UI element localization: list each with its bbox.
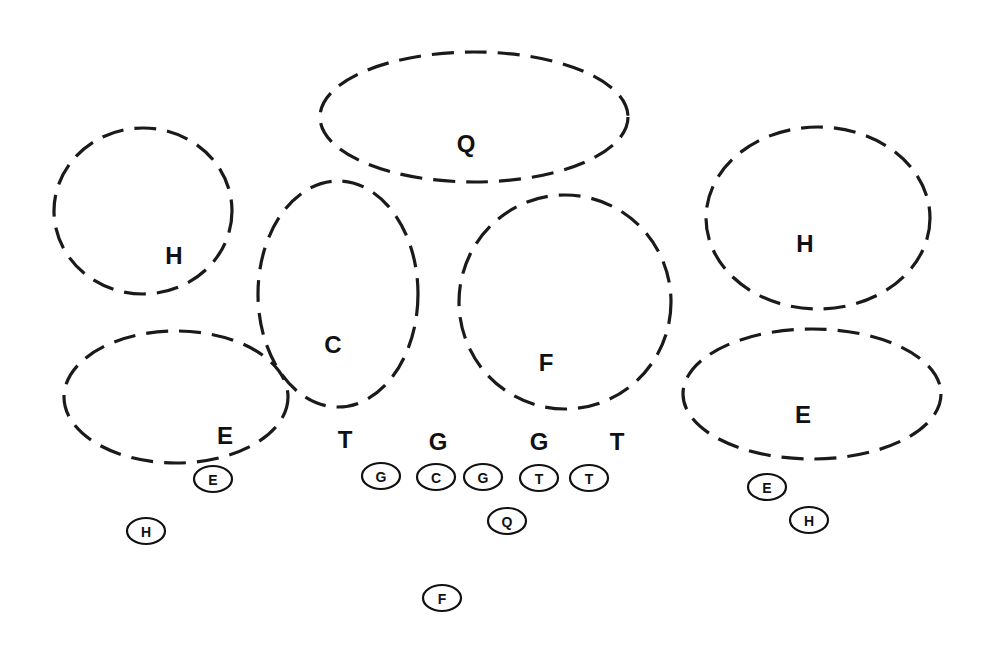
zone-label: E (795, 401, 811, 428)
zone-label: C (324, 331, 341, 358)
player-label: E (762, 480, 771, 496)
zone-label: F (539, 349, 554, 376)
zone-outline (64, 331, 288, 463)
zone-outline (459, 195, 671, 409)
zone-label: H (796, 230, 813, 257)
off-q: Q (488, 508, 526, 534)
player-label: G (376, 469, 387, 485)
player-label: G (478, 470, 489, 486)
zone-q: Q (320, 52, 628, 182)
zone-outline (706, 127, 930, 309)
player-label: T (585, 471, 594, 487)
def-t-left: T (338, 426, 353, 453)
zone-label: H (165, 242, 182, 269)
football-coverage-diagram: QHCFHEE TGGT EHGCGTTQFEH (0, 0, 984, 647)
player-label: T (535, 471, 544, 487)
def-g-left: G (429, 428, 448, 455)
zone-outline (683, 329, 941, 459)
coverage-zones: QHCFHEE (54, 52, 941, 463)
zone-e-right: E (683, 329, 941, 459)
off-e-right: E (748, 474, 786, 500)
offensive-formation: EHGCGTTQFEH (127, 463, 828, 611)
off-e-left: E (194, 466, 232, 492)
player-label: F (438, 591, 447, 607)
off-t-right: T (570, 465, 608, 491)
zone-e-left: E (64, 331, 288, 463)
off-h-right: H (790, 507, 828, 533)
zone-outline (54, 128, 232, 294)
off-g-right: G (464, 464, 502, 490)
def-g-right: G (530, 428, 549, 455)
def-t-right: T (610, 428, 625, 455)
off-t-left: T (520, 465, 558, 491)
player-label: E (208, 472, 217, 488)
zone-f: F (459, 195, 671, 409)
player-label: H (141, 524, 151, 540)
zone-h-left: H (54, 128, 232, 294)
defensive-line: TGGT (338, 426, 625, 455)
off-c: C (417, 464, 455, 490)
off-f: F (423, 585, 461, 611)
player-label: H (804, 513, 814, 529)
player-label: C (431, 470, 441, 486)
zone-h-right: H (706, 127, 930, 309)
off-g-left: G (362, 463, 400, 489)
zone-outline (320, 52, 628, 182)
off-h-left: H (127, 518, 165, 544)
zone-label: E (217, 422, 233, 449)
zone-label: Q (457, 130, 476, 157)
player-label: Q (502, 514, 513, 530)
